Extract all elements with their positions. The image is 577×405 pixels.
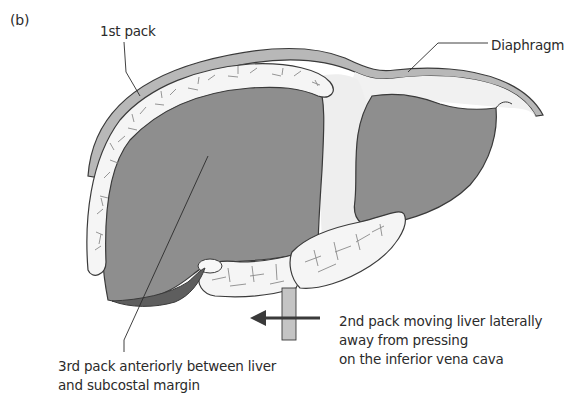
panel-label: (b) bbox=[10, 11, 29, 30]
label-second-pack-line3: on the inferior vena cava bbox=[339, 350, 542, 369]
label-diaphragm: Diaphragm bbox=[491, 36, 564, 55]
label-second-pack: 2nd pack moving liver laterally away fro… bbox=[339, 312, 542, 369]
label-third-pack-line1: 3rd pack anteriorly between liver bbox=[58, 357, 276, 376]
label-first-pack: 1st pack bbox=[100, 22, 156, 41]
label-second-pack-line1: 2nd pack moving liver laterally bbox=[339, 312, 542, 331]
label-third-pack: 3rd pack anteriorly between liver and su… bbox=[58, 357, 276, 395]
inferior-vena-cava bbox=[282, 288, 296, 340]
leader-first-pack bbox=[124, 42, 140, 96]
liver-left-lobe bbox=[354, 94, 496, 226]
label-second-pack-line2: away from pressing bbox=[339, 331, 542, 350]
label-third-pack-line2: and subcostal margin bbox=[58, 376, 276, 395]
